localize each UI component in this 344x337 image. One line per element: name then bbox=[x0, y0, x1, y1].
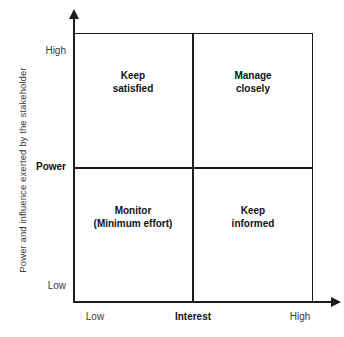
quadrant-label-line1: Monitor bbox=[115, 204, 152, 217]
quadrant-label-line1: Manage bbox=[234, 69, 271, 82]
stakeholder-matrix-diagram: Power and influence exerted by the stake… bbox=[0, 0, 344, 337]
y-axis-label-power: Power bbox=[2, 161, 66, 172]
quadrant-keep-informed: Keep informed bbox=[193, 169, 313, 302]
quadrant-manage-closely: Manage closely bbox=[193, 33, 313, 167]
quadrant-label-line2: informed bbox=[232, 217, 275, 230]
x-axis-arrow-icon bbox=[331, 297, 341, 307]
quadrant-label-line2: satisfied bbox=[113, 82, 154, 95]
quadrant-label-line1: Keep bbox=[121, 69, 145, 82]
y-axis-tick-low: Low bbox=[2, 280, 66, 291]
quadrant-monitor-minimum-effort: Monitor (Minimum effort) bbox=[74, 169, 192, 302]
quadrant-label-line2: closely bbox=[236, 82, 270, 95]
x-axis-tick-low: Low bbox=[70, 311, 120, 322]
x-axis-tick-high: High bbox=[275, 311, 325, 322]
y-axis-arrow-icon bbox=[69, 9, 79, 19]
quadrant-label-line2: (Minimum effort) bbox=[94, 217, 173, 230]
x-axis-label-interest: Interest bbox=[158, 311, 228, 322]
quadrant-label-line1: Keep bbox=[241, 204, 265, 217]
quadrant-keep-satisfied: Keep satisfied bbox=[74, 33, 192, 167]
y-axis-tick-high: High bbox=[2, 45, 66, 56]
